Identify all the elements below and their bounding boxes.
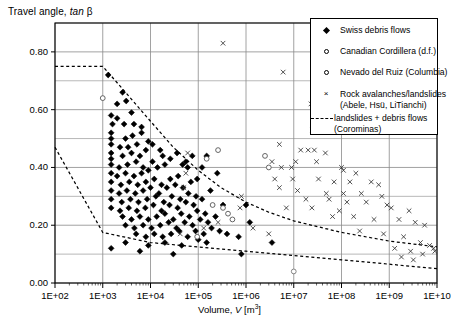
legend-marker-circle <box>313 46 339 57</box>
legend-item: landslides + debris flows(Corominas) <box>311 113 427 134</box>
x-tick-label: 1E+08 <box>328 290 356 301</box>
x-axis-title-units: [m3] <box>241 304 260 315</box>
data-point <box>221 205 226 210</box>
legend-item: Nevado del Ruiz (Columbia) <box>313 67 447 78</box>
legend-label: landslides + debris flows(Corominas) <box>333 113 427 134</box>
legend-label-line2: (Abele, Hsü, LiTianchi) <box>340 100 446 111</box>
x-tick-label: 1E+09 <box>375 290 403 301</box>
y-tick-label: 0.20 <box>30 219 49 230</box>
x-tick-label: 1E+10 <box>423 290 451 301</box>
legend-label-line2: (Corominas) <box>334 124 427 135</box>
y-tick-label: 0.80 <box>30 46 49 57</box>
legend-marker-dashed <box>311 113 333 124</box>
x-axis-title-prefix: Volume, <box>198 304 235 315</box>
legend-label-line1: Swiss debris flows <box>340 25 410 36</box>
legend-label-line1: Canadian Cordillera (d.f.) <box>340 46 436 57</box>
y-tick-label: 0.40 <box>30 161 49 172</box>
legend-label-line1: Rock avalanches/landslides <box>340 89 446 100</box>
data-point <box>291 269 296 274</box>
x-tick-label: 1E+06 <box>232 290 260 301</box>
legend-x-icon: × <box>324 90 329 98</box>
y-tick-label: 0.00 <box>30 277 49 288</box>
legend-item: ×Rock avalanches/landslides(Abele, Hsü, … <box>313 89 446 110</box>
x-tick-label: 1E+04 <box>137 290 165 301</box>
data-point <box>266 165 271 170</box>
chart-figure: Travel angle, tan β 0.000.200.400.600.80… <box>0 0 459 325</box>
legend: Swiss debris flowsCanadian Cordillera (d… <box>310 18 438 135</box>
legend-marker-diamond <box>313 25 339 36</box>
x-tick-label: 1E+03 <box>89 290 117 301</box>
x-tick-label: 1E+07 <box>280 290 308 301</box>
legend-label: Canadian Cordillera (d.f.) <box>339 46 436 57</box>
legend-label: Nevado del Ruiz (Columbia) <box>339 67 447 78</box>
y-tick-label: 0.60 <box>30 104 49 115</box>
x-tick-label: 1E+02 <box>41 290 69 301</box>
data-point <box>204 156 209 161</box>
data-point <box>263 153 268 158</box>
legend-open-circle-icon <box>324 70 329 75</box>
legend-item: Canadian Cordillera (d.f.) <box>313 46 436 57</box>
data-point <box>195 234 200 239</box>
legend-dashed-line-icon <box>311 118 333 119</box>
x-tick-label: 1E+05 <box>184 290 212 301</box>
data-point <box>100 96 105 101</box>
x-axis-title: Volume, V [m3] <box>0 303 459 315</box>
legend-label-line1: landslides + debris flows <box>334 113 427 124</box>
legend-label: Swiss debris flows <box>339 25 410 36</box>
data-point <box>216 148 221 153</box>
legend-filled-diamond-icon <box>322 27 329 34</box>
data-point <box>210 203 215 208</box>
legend-item: Swiss debris flows <box>313 25 410 36</box>
data-point <box>230 217 235 222</box>
data-point <box>226 211 231 216</box>
series-2 <box>291 269 296 274</box>
legend-marker-circle <box>313 67 339 78</box>
legend-open-circle-icon <box>324 49 329 54</box>
legend-label-line1: Nevado del Ruiz (Columbia) <box>340 67 447 78</box>
legend-marker-x: × <box>313 89 339 100</box>
legend-label: Rock avalanches/landslides(Abele, Hsü, L… <box>339 89 446 110</box>
